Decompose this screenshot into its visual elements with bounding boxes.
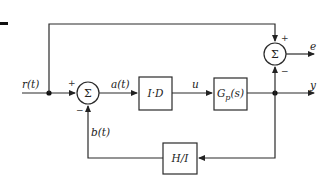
controller-label: I·D (147, 87, 164, 99)
sigma-symbol-outer: Σ (271, 48, 279, 61)
control-signal-label: u (192, 78, 199, 90)
output-y-label: y (309, 79, 317, 91)
outer-plus-sign: + (281, 33, 289, 43)
error-signal-label: a(t) (111, 78, 130, 90)
outer-minus-sign: − (281, 66, 289, 76)
input-signal-label: r(t) (22, 78, 39, 90)
sigma-symbol-inner: Σ (84, 87, 92, 100)
output-e-label: e (310, 40, 316, 52)
diagram-canvas: Σ I·D Gp(s) Σ H/I r(t) a(t) u b(t) y e +… (0, 0, 334, 184)
cropped-mark (0, 22, 8, 25)
inner-minus-sign: − (76, 105, 84, 115)
feedback-signal-label: b(t) (91, 126, 110, 138)
inner-plus-sign: + (68, 78, 76, 88)
feedback-block-label: H/I (171, 152, 190, 164)
